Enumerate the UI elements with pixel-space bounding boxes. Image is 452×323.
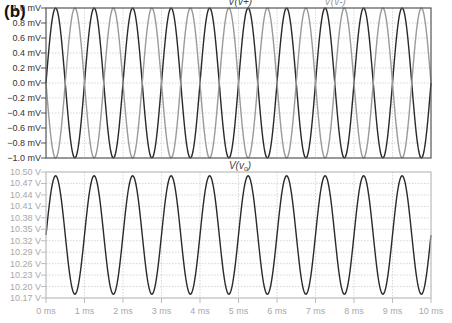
y-tick-label: 0.4 mV [12, 48, 41, 58]
x-tick-label: 10 ms [419, 306, 444, 316]
y-tick-label: 0.0 mV [12, 78, 41, 88]
x-tick-label: 0 ms [36, 306, 56, 316]
y-tick-label: −0.6 mV [7, 123, 41, 133]
x-tick-label: 6 ms [267, 306, 287, 316]
y-tick-label: 10.41 V [10, 201, 41, 211]
x-tick-label: 1 ms [75, 306, 95, 316]
legend-label: V(vo) [229, 160, 251, 172]
y-tick-label: 10.17 V [10, 293, 41, 303]
y-tick-label: 0.8 mV [12, 18, 41, 28]
y-tick-label: 10.35 V [10, 224, 41, 234]
x-tick-label: 8 ms [344, 306, 364, 316]
y-tick-label: −0.4 mV [7, 108, 41, 118]
y-tick-label: −0.2 mV [7, 93, 41, 103]
y-tick-label: 0.2 mV [12, 63, 41, 73]
bottom-plot: 10.50 V10.47 V10.44 V10.41 V10.38 V10.35… [10, 160, 444, 316]
y-tick-label: −1.0 mV [7, 153, 41, 163]
y-tick-label: 10.47 V [10, 178, 41, 188]
y-tick-label: 10.29 V [10, 247, 41, 257]
y-tick-label: 10.38 V [10, 213, 41, 223]
x-tick-label: 5 ms [229, 306, 249, 316]
x-tick-label: 9 ms [383, 306, 403, 316]
x-tick-label: 7 ms [306, 306, 326, 316]
figure-canvas: 1.0 mV0.8 mV0.6 mV0.4 mV0.2 mV0.0 mV−0.2… [0, 0, 452, 323]
y-tick-label: 10.20 V [10, 282, 41, 292]
x-tick-label: 2 ms [113, 306, 133, 316]
y-tick-label: 10.44 V [10, 190, 41, 200]
top-plot: 1.0 mV0.8 mV0.6 mV0.4 mV0.2 mV0.0 mV−0.2… [7, 0, 431, 163]
y-tick-label: 10.23 V [10, 270, 41, 280]
legend-label: V(v+) [228, 0, 252, 7]
y-tick-label: 10.32 V [10, 236, 41, 246]
y-tick-label: 0.6 mV [12, 33, 41, 43]
y-tick-label: 1.0 mV [12, 3, 41, 13]
y-tick-label: 10.50 V [10, 167, 41, 177]
legend-label: V(v-) [324, 0, 346, 7]
y-tick-label: 10.26 V [10, 259, 41, 269]
x-tick-label: 4 ms [190, 306, 210, 316]
y-tick-label: −0.8 mV [7, 138, 41, 148]
x-tick-label: 3 ms [152, 306, 172, 316]
